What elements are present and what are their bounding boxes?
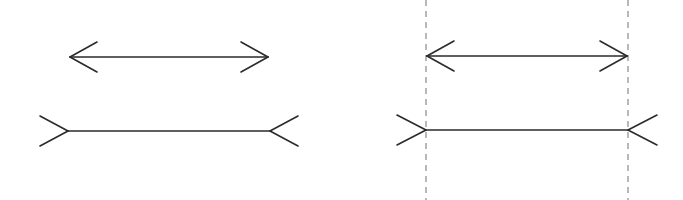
- left-panel: [40, 42, 298, 146]
- fin-right-icon: [628, 130, 657, 145]
- arrowhead-left-icon: [427, 41, 454, 56]
- fin-left-icon: [40, 131, 68, 146]
- fin-left-icon: [397, 130, 426, 145]
- fin-left-icon: [397, 115, 426, 130]
- right-panel: [397, 0, 657, 200]
- fin-right-icon: [270, 116, 298, 131]
- inward-fin-line: [40, 116, 298, 146]
- arrowhead-left-icon: [70, 42, 97, 57]
- muller-lyer-diagram: [0, 0, 683, 200]
- outward-arrow-line: [70, 42, 268, 72]
- arrowhead-right-icon: [600, 56, 627, 71]
- inward-fin-line: [397, 115, 657, 145]
- fin-right-icon: [628, 115, 657, 130]
- fin-left-icon: [40, 116, 68, 131]
- outward-arrow-line: [427, 41, 627, 71]
- arrowhead-right-icon: [241, 57, 268, 72]
- arrowhead-left-icon: [70, 57, 97, 72]
- arrowhead-right-icon: [600, 41, 627, 56]
- fin-right-icon: [270, 131, 298, 146]
- arrowhead-right-icon: [241, 42, 268, 57]
- arrowhead-left-icon: [427, 56, 454, 71]
